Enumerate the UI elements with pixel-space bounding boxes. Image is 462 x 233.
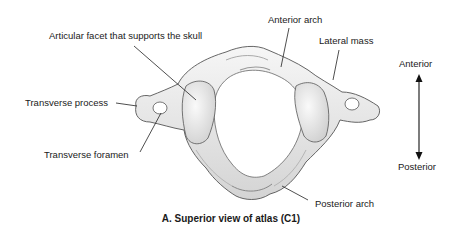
- label-lateral-mass: Lateral mass: [319, 36, 373, 46]
- double-headed-vertical-arrow: [416, 74, 423, 160]
- label-transverse-foramen: Transverse foramen: [44, 150, 129, 160]
- right-transverse-foramen: [345, 98, 359, 110]
- label-anterior-arch: Anterior arch: [268, 15, 322, 25]
- label-posterior-arch: Posterior arch: [315, 199, 374, 209]
- label-transverse-process: Transverse process: [25, 98, 108, 108]
- figure-caption: A. Superior view of atlas (C1): [0, 213, 462, 224]
- label-posterior-direction: Posterior: [398, 162, 436, 172]
- label-anterior-direction: Anterior: [399, 59, 432, 69]
- left-transverse-foramen: [153, 102, 167, 114]
- label-articular-facet: Articular facet that supports the skull: [49, 31, 202, 41]
